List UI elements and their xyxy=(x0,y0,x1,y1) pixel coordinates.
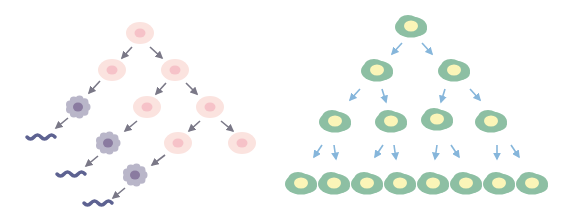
proliferating-cell xyxy=(450,172,482,195)
arrow-icon xyxy=(314,145,322,157)
arrow-icon xyxy=(186,83,197,94)
arrow-icon xyxy=(375,145,383,157)
arrow-icon xyxy=(56,118,68,128)
arrow-icon xyxy=(89,81,100,93)
muscle-fiber xyxy=(27,135,55,139)
arrow-icon xyxy=(113,188,125,198)
arrow-icon xyxy=(441,89,445,102)
right-panel-proliferation-tree xyxy=(285,15,548,195)
arrow-icon xyxy=(350,89,360,100)
proliferating-cell xyxy=(417,172,449,195)
stem-cell xyxy=(161,59,189,81)
proliferating-cell xyxy=(285,172,317,195)
arrow-icon xyxy=(221,121,233,131)
muscle-fiber xyxy=(57,172,85,176)
stem-cell xyxy=(126,22,154,44)
stem-cell xyxy=(164,132,192,154)
differentiating-cell xyxy=(123,164,148,187)
arrow-icon xyxy=(511,145,519,157)
arrow-icon xyxy=(189,121,200,131)
proliferating-cell xyxy=(375,110,407,133)
proliferating-cell xyxy=(421,108,453,131)
proliferating-cell xyxy=(384,172,416,195)
arrow-icon xyxy=(422,43,432,54)
arrow-icon xyxy=(86,156,98,166)
arrow-icon xyxy=(470,89,480,100)
left-panel-differentiation-tree xyxy=(27,22,256,205)
arrow-icon xyxy=(334,145,336,159)
stem-cell xyxy=(196,96,224,118)
proliferating-cell xyxy=(395,15,427,38)
muscle-fiber xyxy=(84,201,112,205)
proliferating-cell xyxy=(319,110,351,133)
proliferating-cell xyxy=(438,59,470,82)
arrow-icon xyxy=(382,89,386,102)
proliferating-cell xyxy=(516,172,548,195)
proliferating-cell xyxy=(483,172,515,195)
stem-cell xyxy=(228,132,256,154)
arrow-icon xyxy=(125,121,137,131)
arrow-icon xyxy=(451,145,459,157)
arrow-icon xyxy=(392,43,402,54)
differentiating-cell xyxy=(66,96,91,119)
arrow-icon xyxy=(394,145,396,159)
arrow-icon xyxy=(122,47,132,58)
cell-division-diagram xyxy=(0,0,569,219)
stem-cell xyxy=(98,59,126,81)
proliferating-cell xyxy=(351,172,383,195)
arrow-icon xyxy=(156,83,166,94)
stem-cell xyxy=(133,96,161,118)
arrow-icon xyxy=(150,47,162,58)
proliferating-cell xyxy=(318,172,350,195)
differentiating-cell xyxy=(96,132,121,155)
proliferating-cell xyxy=(475,110,507,133)
proliferating-cell xyxy=(361,59,393,82)
arrow-icon xyxy=(435,145,437,159)
arrow-icon xyxy=(152,155,165,165)
